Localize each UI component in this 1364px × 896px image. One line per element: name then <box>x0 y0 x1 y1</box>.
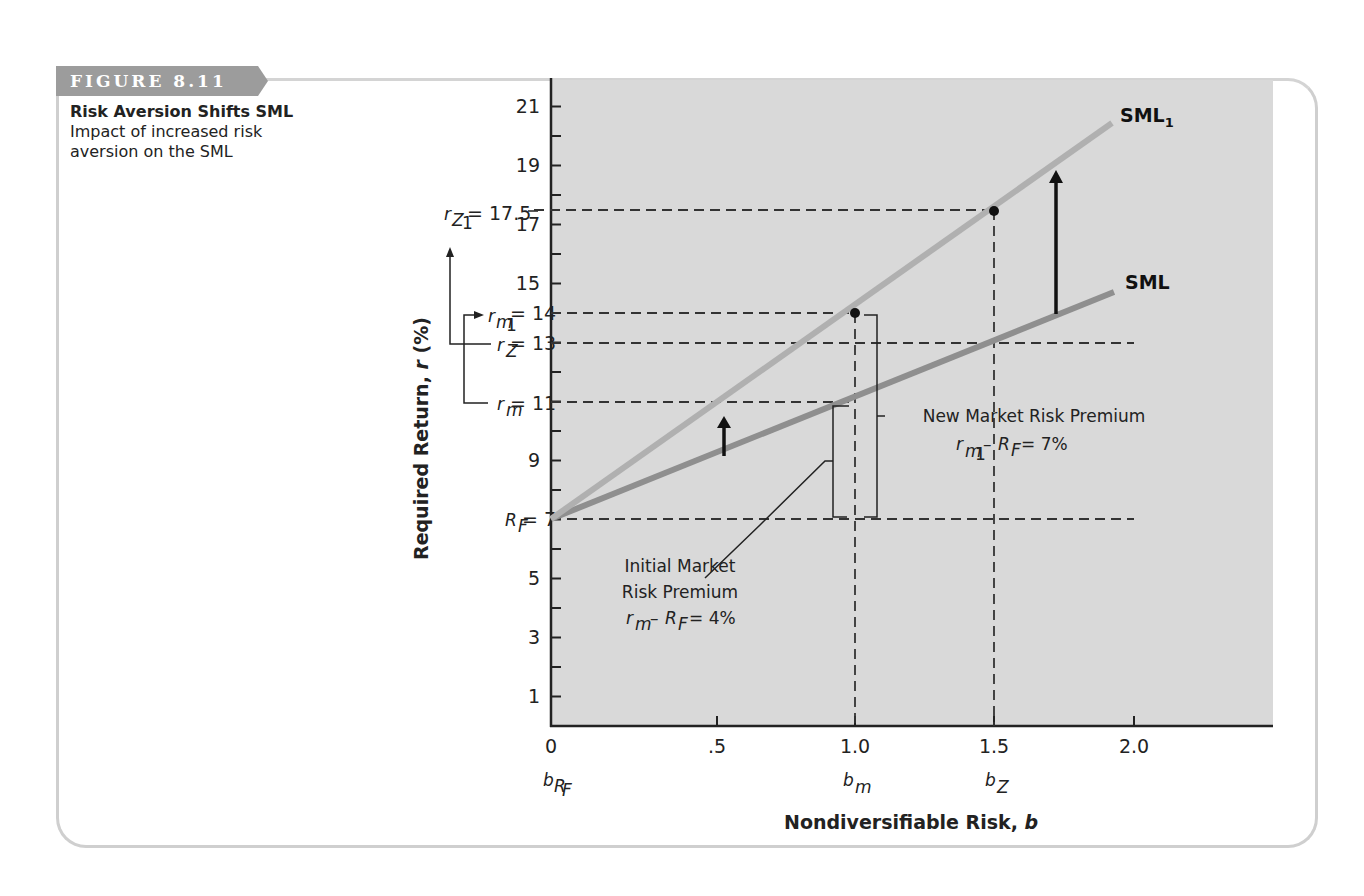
y-tick-3: 3 <box>528 626 540 648</box>
svg-text:r: r <box>497 335 505 355</box>
svg-text:New Market Risk Premium: New Market Risk Premium <box>923 406 1146 426</box>
svg-text:F: F <box>562 780 572 800</box>
svg-text:Risk Premium: Risk Premium <box>622 582 738 602</box>
label-rf: R F = 7 <box>505 508 556 536</box>
label-b-m: b m <box>843 770 872 797</box>
sml-label: SML <box>1125 271 1170 293</box>
svg-text:= 14: = 14 <box>510 302 556 324</box>
plot-area <box>551 80 1273 726</box>
point-market-sml1 <box>850 308 860 318</box>
x-axis-title: Nondiversifiable Risk, b <box>784 811 1038 833</box>
point-z-sml1 <box>989 206 999 216</box>
x-tick-0: 0 <box>545 735 557 757</box>
svg-text:= 13: = 13 <box>510 332 556 354</box>
svg-text:Z: Z <box>996 777 1009 797</box>
chart: 1 3 5 9 15 19 21 17 r Z 1 = 17.5 r m 1 =… <box>0 0 1364 896</box>
svg-text:b: b <box>843 770 854 790</box>
y-tick-19: 19 <box>516 154 540 176</box>
svg-text:= 4%: = 4% <box>689 608 736 628</box>
svg-text:r: r <box>488 306 496 326</box>
svg-text:= 7: = 7 <box>522 508 556 530</box>
label-rm: r m = 11 <box>497 392 556 420</box>
y-tick-1: 1 <box>528 685 540 707</box>
svg-text:–: – <box>983 434 992 454</box>
svg-text:= 11: = 11 <box>510 392 556 414</box>
label-b-z: b Z <box>985 770 1009 797</box>
svg-text:r: r <box>497 394 505 414</box>
y-axis-title: Required Return, r (%) <box>410 317 432 560</box>
svg-text:m: m <box>855 777 872 797</box>
left-connector-arrows <box>446 247 491 403</box>
svg-text:b: b <box>543 770 554 790</box>
svg-text:r: r <box>444 204 452 224</box>
label-rz1: 17 r Z 1 = 17.5 <box>444 202 540 235</box>
initial-premium-annotation: Initial Market Risk Premium r m – R F = … <box>622 556 738 634</box>
svg-text:R: R <box>998 434 1010 454</box>
y-tick-5: 5 <box>528 567 540 589</box>
label-rz: r Z = 13 <box>497 332 556 361</box>
svg-text:r: r <box>956 434 964 454</box>
label-b-rf: b R F <box>543 770 572 800</box>
x-tick-0.5: .5 <box>708 735 726 757</box>
label-rm1: r m 1 = 14 <box>488 302 556 335</box>
x-tick-1.0: 1.0 <box>840 735 870 757</box>
x-tick-1.5: 1.5 <box>979 735 1009 757</box>
svg-text:R: R <box>505 510 517 530</box>
svg-text:= 7%: = 7% <box>1021 434 1068 454</box>
svg-text:–: – <box>650 608 659 628</box>
svg-text:Initial Market: Initial Market <box>625 556 736 576</box>
svg-text:F: F <box>678 614 688 634</box>
y-tick-15: 15 <box>516 272 540 294</box>
svg-text:r: r <box>626 608 634 628</box>
svg-text:b: b <box>985 770 996 790</box>
y-tick-21: 21 <box>516 95 540 117</box>
svg-text:= 17.5: = 17.5 <box>467 202 531 224</box>
y-tick-9: 9 <box>528 449 540 471</box>
svg-text:F: F <box>1011 440 1021 460</box>
svg-text:R: R <box>665 608 677 628</box>
x-tick-2.0: 2.0 <box>1119 735 1149 757</box>
